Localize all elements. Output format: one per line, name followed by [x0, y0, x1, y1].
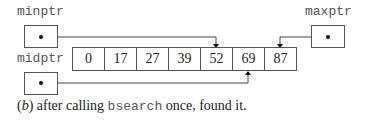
- caption-code: bsearch: [108, 99, 163, 114]
- midptr-dot: [39, 81, 43, 85]
- minptr-label: minptr: [17, 4, 64, 19]
- array-cell: 39: [168, 47, 201, 71]
- caption-part-label: b: [22, 98, 29, 113]
- array-cell: 69: [232, 47, 265, 71]
- array-cell: 87: [264, 47, 297, 71]
- caption-text-after: once, found it.: [162, 98, 246, 113]
- minptr-dot: [39, 35, 43, 39]
- maxptr-dot: [326, 35, 330, 39]
- array-cell: 17: [104, 47, 137, 71]
- minptr-arrow: [41, 37, 216, 45]
- midptr-arrow: [41, 74, 248, 83]
- maxptr-label: maxptr: [305, 4, 352, 19]
- caption-text-before: after calling: [33, 98, 107, 113]
- array-cell: 52: [200, 47, 233, 71]
- array-cell: 0: [72, 47, 105, 71]
- midptr-label: midptr: [17, 51, 64, 66]
- array-cell: 27: [136, 47, 169, 71]
- figure-caption: (b) after calling bsearch once, found it…: [17, 98, 247, 114]
